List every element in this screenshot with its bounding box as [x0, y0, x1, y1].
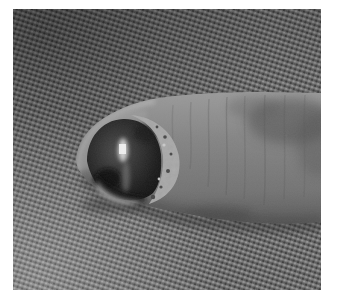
clinical-photo-svg: [13, 9, 321, 290]
photo-grain: [13, 9, 321, 290]
clinical-photo: [13, 9, 321, 290]
